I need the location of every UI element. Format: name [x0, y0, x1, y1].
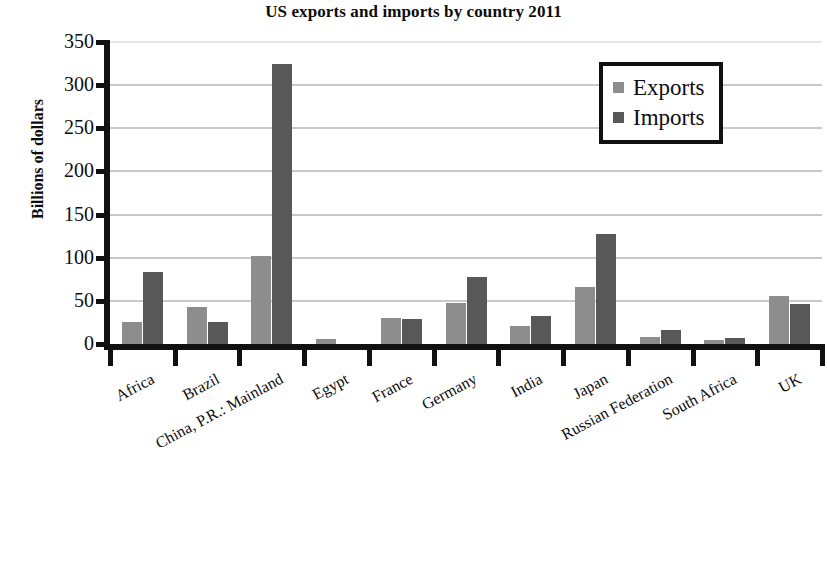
bar-imports-uk [790, 304, 810, 344]
y-axis-tick-label: 300 [34, 74, 94, 94]
bar-imports-china-p-r-mainland [272, 64, 292, 344]
y-axis-tick-label: 100 [34, 247, 94, 267]
x-axis-tick [237, 344, 242, 366]
legend-swatch-exports-icon [613, 82, 624, 93]
x-axis-label-germany: Germany [419, 370, 480, 414]
bar-exports-uk [769, 296, 789, 344]
x-axis-tick [367, 344, 372, 366]
y-axis-tick-label: 200 [34, 160, 94, 180]
x-axis-tick [755, 344, 760, 366]
legend: Exports Imports [599, 62, 723, 144]
x-axis-tick [108, 344, 113, 366]
bar-imports-india [531, 316, 551, 344]
x-axis-label-africa: Africa [113, 370, 158, 405]
y-axis-tick-label: 250 [34, 117, 94, 137]
bar-exports-brazil [187, 307, 207, 344]
y-axis-tick-label: 50 [34, 290, 94, 310]
gridline [110, 170, 822, 172]
bar-chart: US exports and imports by country 2011 B… [0, 0, 827, 564]
y-axis-tick-label: 350 [34, 31, 94, 51]
x-axis-label-brazil: Brazil [179, 370, 222, 404]
bar-imports-russian-federation [661, 330, 681, 344]
bar-exports-china-p-r-mainland [251, 256, 271, 344]
bar-exports-russian-federation [640, 337, 660, 344]
x-axis-label-japan: Japan [570, 370, 611, 403]
x-axis-label-egypt: Egypt [309, 370, 351, 404]
bar-imports-africa [143, 272, 163, 344]
bar-imports-brazil [208, 322, 228, 344]
x-axis-tick [302, 344, 307, 366]
gridline [110, 214, 822, 216]
x-axis-tick [691, 344, 696, 366]
x-axis-tick [432, 344, 437, 366]
bar-exports-germany [446, 303, 466, 344]
legend-item-imports: Imports [613, 102, 705, 132]
bar-exports-india [510, 326, 530, 344]
legend-item-exports: Exports [613, 72, 705, 102]
gridline [110, 257, 822, 259]
x-axis-tick [173, 344, 178, 366]
x-axis-tick [626, 344, 631, 366]
x-axis-tick [496, 344, 501, 366]
y-axis-tick-label: 150 [34, 204, 94, 224]
x-axis-line [104, 344, 822, 350]
gridline [110, 41, 822, 43]
bar-exports-africa [122, 322, 142, 344]
x-axis-tick [820, 344, 825, 366]
legend-swatch-imports-icon [613, 112, 624, 123]
legend-label-exports: Exports [633, 76, 705, 99]
bar-imports-france [402, 319, 422, 344]
bar-imports-germany [467, 277, 487, 344]
bar-imports-japan [596, 234, 616, 344]
x-axis-tick [561, 344, 566, 366]
x-axis-label-india: India [508, 370, 545, 401]
x-axis-label-russian-federation: Russian Federation [558, 370, 675, 444]
bar-exports-france [381, 318, 401, 344]
bar-exports-japan [575, 287, 595, 344]
legend-label-imports: Imports [633, 106, 705, 129]
y-axis-tick-label: 0 [34, 333, 94, 353]
x-axis-label-france: France [369, 370, 416, 406]
chart-title: US exports and imports by country 2011 [0, 2, 827, 22]
x-axis-label-uk: UK [776, 370, 805, 397]
